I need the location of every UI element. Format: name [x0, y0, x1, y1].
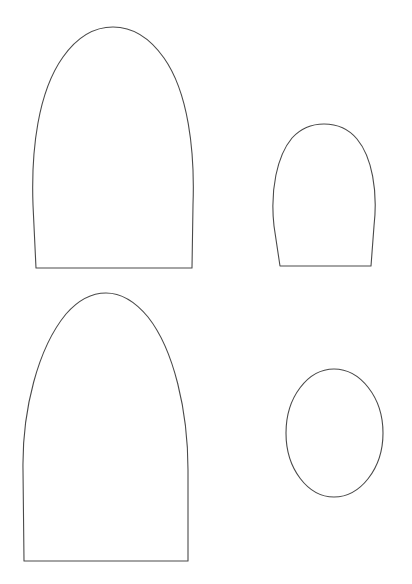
canvas-background: [0, 0, 412, 584]
drawing-canvas: [0, 0, 412, 584]
shapes-svg-canvas: [0, 0, 412, 584]
